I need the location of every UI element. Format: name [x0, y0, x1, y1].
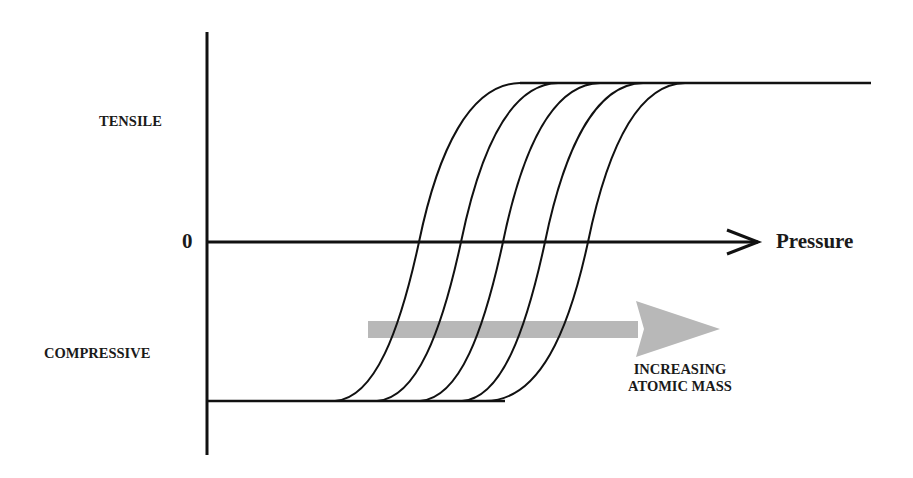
annotation-line-1: INCREASING	[600, 361, 760, 378]
tensile-label: TENSILE	[99, 113, 162, 130]
diagram: TENSILE 0 COMPRESSIVE Pressure INCREASIN…	[0, 0, 913, 478]
annotation-line-2: ATOMIC MASS	[600, 378, 760, 395]
increasing-atomic-mass-label: INCREASING ATOMIC MASS	[600, 361, 760, 395]
zero-label: 0	[182, 229, 193, 254]
compressive-label: COMPRESSIVE	[44, 345, 150, 362]
increasing-atomic-mass-arrow-icon	[368, 301, 720, 357]
pressure-label: Pressure	[776, 229, 853, 254]
